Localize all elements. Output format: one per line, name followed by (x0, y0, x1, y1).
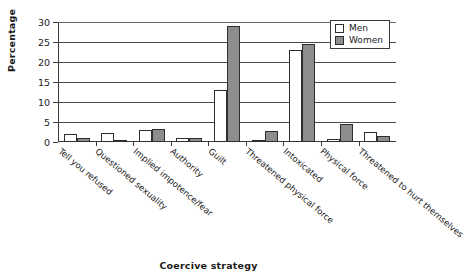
bar-group (58, 22, 96, 142)
bar-women (152, 129, 165, 142)
legend-item-women: Women (335, 36, 383, 45)
bar-women (265, 131, 278, 142)
legend-swatch-men (335, 24, 344, 33)
bar-group (96, 22, 134, 142)
y-tick-label-10: 10 (38, 97, 50, 108)
y-tick-label-30: 30 (38, 17, 50, 28)
legend-label-men: Men (349, 24, 368, 33)
y-tick-label-20: 20 (38, 57, 50, 68)
bar-women (227, 26, 240, 142)
bar-men (327, 139, 340, 142)
bar-women (377, 136, 390, 142)
bar-men (176, 138, 189, 142)
x-axis-label: Questioned sexuality (94, 146, 170, 212)
bar-group (283, 22, 321, 142)
bar-women (114, 140, 127, 142)
bar-women (189, 138, 202, 142)
x-axis-labels: Tell you refusedQuestioned sexualityImpl… (58, 146, 396, 246)
x-axis-label: Authority (169, 146, 206, 179)
legend-label-women: Women (349, 36, 383, 45)
bar-men (289, 50, 302, 142)
bar-women (302, 44, 315, 142)
y-axis-title: Percentage (6, 9, 17, 72)
bar-men (64, 134, 77, 142)
bar-group (171, 22, 209, 142)
y-tick-label-5: 5 (44, 117, 50, 128)
bar-men (252, 140, 265, 142)
bar-women (340, 124, 353, 142)
legend-swatch-women (335, 36, 344, 45)
bar-men (364, 132, 377, 142)
x-axis-label: Threatened to hurt themselves (357, 146, 465, 240)
bar-women (77, 138, 90, 142)
bar-men (214, 90, 227, 142)
bar-group (246, 22, 284, 142)
legend: Men Women (330, 20, 390, 49)
bar-men (139, 130, 152, 142)
legend-item-men: Men (335, 24, 383, 33)
x-axis-label: Guilt (206, 146, 228, 167)
x-axis-title: Coercive strategy (0, 260, 417, 271)
y-tick-label-25: 25 (38, 37, 50, 48)
bar-men (101, 133, 114, 142)
y-tick-label-0: 0 (44, 137, 50, 148)
y-tick-0 (53, 142, 58, 143)
bar-group (133, 22, 171, 142)
bar-group (208, 22, 246, 142)
y-tick-label-15: 15 (38, 77, 50, 88)
